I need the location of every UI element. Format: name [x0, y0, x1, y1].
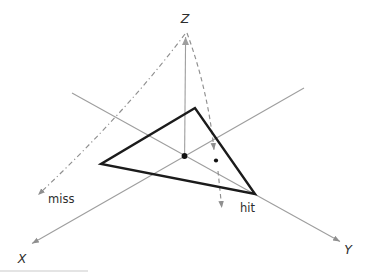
x-axis-line	[32, 88, 304, 244]
diagram-canvas: Z X Y miss hit	[0, 0, 368, 274]
miss-ray-label: miss	[48, 192, 74, 206]
hit-ray-label: hit	[240, 201, 255, 215]
hit-ray-upper	[187, 33, 214, 150]
z-axis-line	[185, 37, 186, 156]
x-axis-label: X	[17, 251, 27, 266]
hit-intersection-point	[214, 158, 218, 162]
origin-point	[182, 153, 188, 159]
z-axis-label: Z	[180, 11, 190, 26]
ray-triangle-diagram: Z X Y miss hit	[0, 0, 368, 274]
y-axis-label: Y	[344, 242, 353, 257]
hit-ray-lower	[218, 171, 222, 208]
